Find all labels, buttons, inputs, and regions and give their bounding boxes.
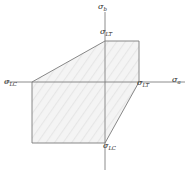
- sigma-a-axis-label: σa: [172, 76, 180, 84]
- sigma-lc-left-label: σLC: [4, 78, 17, 86]
- sigma-lc-bottom-label: σLC: [103, 142, 116, 150]
- sigma-lt-top-subscript: LT: [105, 31, 111, 37]
- sigma-a-subscript: a: [177, 79, 180, 85]
- sigma-lc-bottom-subscript: LC: [108, 145, 115, 151]
- failure-envelope-polygon: [32, 41, 139, 143]
- sigma-b-subscript: b: [103, 6, 106, 12]
- sigma-lt-right-subscript: LT: [142, 82, 148, 88]
- figure-canvas: [0, 0, 190, 176]
- sigma-lc-left-subscript: LC: [9, 81, 16, 87]
- sigma-lt-right-label: σLT: [137, 79, 149, 87]
- sigma-lt-top-label: σLT: [100, 28, 112, 36]
- sigma-b-axis-label: σb: [98, 3, 107, 11]
- failure-envelope-figure: σb σa σLT σLC σLT σLC: [0, 0, 190, 176]
